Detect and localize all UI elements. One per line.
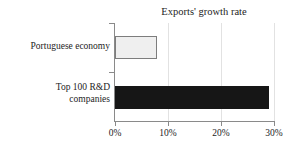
bar-top-100-rd-companies bbox=[115, 86, 269, 109]
y-axis-tick-top bbox=[109, 23, 114, 24]
x-tick-label-0: 0% bbox=[95, 127, 135, 139]
x-axis-tick-3 bbox=[274, 122, 275, 126]
x-axis-line bbox=[114, 121, 275, 122]
x-axis-tick-1 bbox=[168, 122, 169, 126]
category-label-line: Portuguese economy bbox=[31, 41, 110, 53]
category-label-line: companies bbox=[56, 94, 110, 106]
bar-portuguese-economy bbox=[115, 36, 157, 59]
x-tick-label-1: 10% bbox=[148, 127, 188, 139]
x-tick-label-3: 30% bbox=[254, 127, 294, 139]
category-label-line: Top 100 R&D bbox=[56, 82, 110, 94]
x-axis-tick-2 bbox=[221, 122, 222, 126]
x-axis-tick-0 bbox=[115, 122, 116, 126]
bar-chart: Exports' growth rate Portuguese economy … bbox=[0, 0, 308, 154]
category-label-top-100-rd-companies: Top 100 R&D companies bbox=[56, 82, 110, 105]
x-tick-label-2: 20% bbox=[201, 127, 241, 139]
y-axis-tick-middle bbox=[109, 72, 114, 73]
category-label-portuguese-economy: Portuguese economy bbox=[31, 41, 110, 53]
gridline-30pct bbox=[274, 23, 275, 121]
chart-title: Exports' growth rate bbox=[124, 5, 284, 18]
